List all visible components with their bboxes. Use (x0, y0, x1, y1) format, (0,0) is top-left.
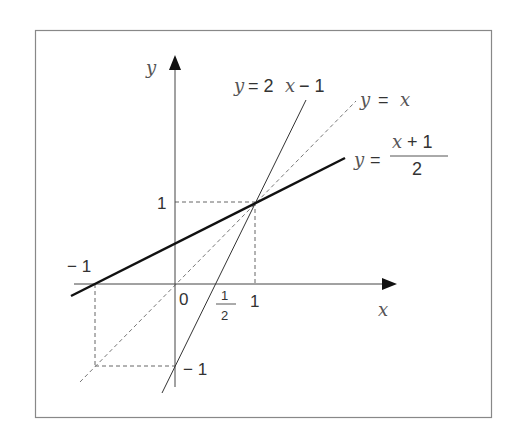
tick-y-minus-1: − 1 (183, 360, 207, 379)
svg-text:y: y (359, 89, 371, 110)
label-line1: y = 2 x − 1 (233, 75, 325, 96)
line-y-equals-x (80, 101, 356, 382)
graph-canvas: y x 0 1 1 − 1 − 1 1 2 y = 2 x − 1 y = x … (0, 0, 515, 447)
tick-x-1: 1 (250, 292, 259, 311)
svg-text:= 2: = 2 (248, 76, 274, 96)
x-axis-label: x (378, 299, 388, 320)
origin-label: 0 (179, 290, 188, 309)
label-line2: y = x (359, 89, 410, 110)
y-axis-label: y (145, 57, 157, 78)
tick-x-half: 1 2 (216, 288, 236, 323)
tick-x-minus-1: − 1 (67, 257, 91, 276)
svg-text:y: y (233, 75, 245, 96)
tick-y-1: 1 (157, 194, 166, 213)
svg-text:=: = (378, 90, 389, 110)
svg-text:x: x (285, 75, 295, 96)
x-axis-arrow-icon (382, 278, 397, 290)
svg-text:x: x (400, 89, 410, 110)
svg-text:2: 2 (412, 159, 422, 179)
svg-text:x: x (392, 131, 402, 152)
svg-text:2: 2 (221, 308, 228, 323)
svg-text:1: 1 (221, 288, 228, 303)
line-y-equals-x-plus-1-over-2 (71, 158, 345, 296)
svg-text:y: y (353, 149, 365, 170)
svg-text:+ 1: + 1 (407, 132, 433, 152)
y-axis-arrow-icon (169, 55, 181, 70)
label-line3: y = x + 1 2 (353, 131, 448, 179)
svg-text:− 1: − 1 (299, 76, 325, 96)
line-y-equals-2x-minus-1 (162, 100, 306, 393)
svg-text:=: = (370, 150, 381, 170)
